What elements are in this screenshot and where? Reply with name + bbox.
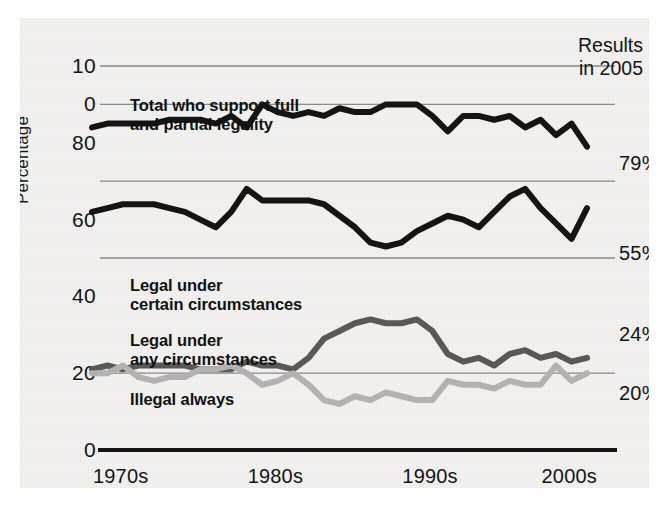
chart-svg [20,18,649,488]
results-note: Results in 2005 [578,34,643,80]
plot-area [20,18,649,488]
x-axis-tick-label: 1980s [248,465,304,488]
series-line-1 [92,189,587,247]
series-label-0: Total who support full and partial legal… [130,96,299,134]
x-axis-tick-label: 1990s [402,465,458,488]
end-label-2: 24% [619,323,649,346]
end-label-3: 20% [619,382,649,405]
end-label-1: 55% [619,242,649,265]
series-label-1: Legal under certain circumstances [130,276,302,314]
chart-scan-area: Percentage 100806040200 1970s1980s1990s2… [20,18,649,488]
end-label-0: 79% [619,152,649,175]
series-label-2: Legal under any circumstances [130,331,277,369]
x-axis-tick-label: 2000s [542,465,598,488]
x-axis-tick-label: 1970s [93,465,149,488]
series-label-3: Illegal always [130,390,234,409]
